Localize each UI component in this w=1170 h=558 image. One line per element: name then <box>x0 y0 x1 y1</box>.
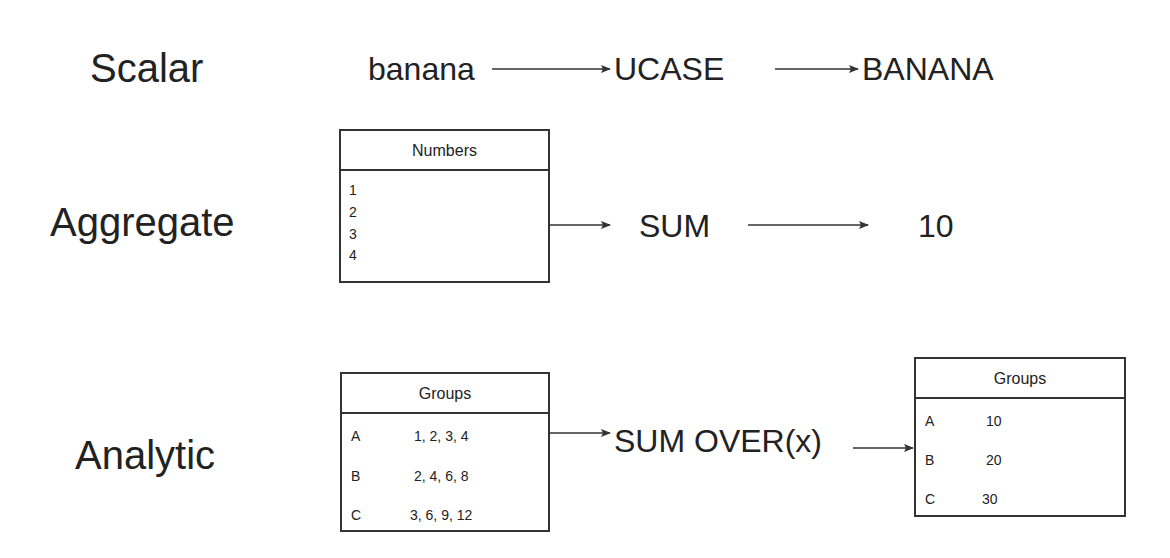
numbers-table-title: Numbers <box>341 131 548 171</box>
groups-input-key: C <box>351 508 361 522</box>
groups-output-table: Groups A 10 B 20 C 30 <box>914 357 1126 517</box>
groups-output-key: C <box>925 492 935 506</box>
row-label-aggregate: Aggregate <box>50 202 235 242</box>
groups-output-key: B <box>925 453 934 467</box>
scalar-output: BANANA <box>862 53 994 85</box>
groups-input-table: Groups A 1, 2, 3, 4 B 2, 4, 6, 8 C 3, 6,… <box>340 372 550 532</box>
numbers-value: 1 <box>349 183 357 197</box>
numbers-table: Numbers 1 2 3 4 <box>339 129 550 283</box>
row-label-analytic: Analytic <box>75 435 215 475</box>
groups-input-value: 2, 4, 6, 8 <box>414 469 468 483</box>
numbers-value: 3 <box>349 227 357 241</box>
groups-output-value: 30 <box>982 492 998 506</box>
row-label-scalar: Scalar <box>90 48 203 88</box>
groups-input-table-title: Groups <box>342 374 548 414</box>
numbers-value: 4 <box>349 248 357 262</box>
groups-output-value: 10 <box>986 414 1002 428</box>
analytic-function: SUM OVER(x) <box>614 425 822 457</box>
scalar-input: banana <box>368 53 475 85</box>
groups-output-value: 20 <box>986 453 1002 467</box>
groups-input-key: A <box>351 429 360 443</box>
aggregate-function: SUM <box>639 210 710 242</box>
groups-input-value: 3, 6, 9, 12 <box>410 508 472 522</box>
groups-output-key: A <box>925 414 934 428</box>
groups-input-value: 1, 2, 3, 4 <box>414 429 468 443</box>
aggregate-output: 10 <box>918 210 954 242</box>
groups-input-key: B <box>351 469 360 483</box>
scalar-function: UCASE <box>614 53 724 85</box>
numbers-value: 2 <box>349 205 357 219</box>
groups-output-table-title: Groups <box>916 359 1124 399</box>
